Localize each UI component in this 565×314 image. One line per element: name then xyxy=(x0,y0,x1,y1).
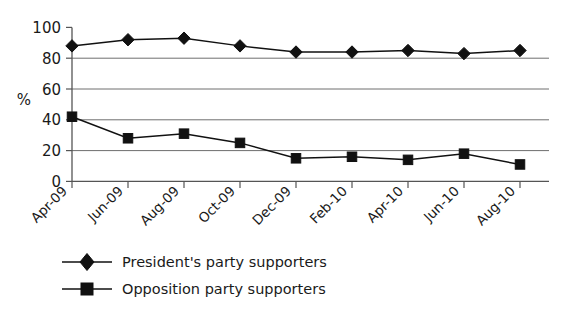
square-marker xyxy=(123,134,133,144)
legend-item-opposition[interactable]: Opposition party supporters xyxy=(62,281,326,297)
diamond-marker xyxy=(122,34,134,46)
x-tick-label-jun-09: Jun-09 xyxy=(84,183,127,226)
x-tick-label-apr-09: Apr-09 xyxy=(27,183,70,226)
legend-item-president[interactable]: President's party supporters xyxy=(62,254,327,271)
diamond-marker xyxy=(290,46,302,58)
legend: President's party supporters Opposition … xyxy=(62,254,327,298)
square-marker xyxy=(179,129,189,139)
x-tick-label-jun-10: Jun-10 xyxy=(420,183,463,226)
x-tick-label-apr-10: Apr-10 xyxy=(363,183,406,226)
y-tick-label-60: 60 xyxy=(42,81,61,99)
diamond-marker xyxy=(80,254,94,271)
legend-label-opposition: Opposition party supporters xyxy=(122,281,326,297)
x-tick-labels: Apr-09 Jun-09 Aug-09 Oct-09 Dec-09 Feb-1… xyxy=(27,183,518,229)
diamond-marker xyxy=(514,44,526,56)
square-marker xyxy=(235,138,245,148)
square-marker xyxy=(459,149,469,159)
y-tick-labels: 100 80 60 40 20 0 xyxy=(32,19,61,191)
diamond-marker xyxy=(178,32,190,44)
x-tick-label-aug-10: Aug-10 xyxy=(473,183,519,229)
x-tick-label-aug-09: Aug-09 xyxy=(137,183,183,229)
square-marker xyxy=(515,160,525,170)
y-axis-title: % xyxy=(17,91,31,109)
series-opposition xyxy=(67,112,525,169)
y-tick-label-20: 20 xyxy=(42,142,61,160)
chart-canvas: 100 80 60 40 20 0 % Apr-09 Jun-09 Aug-09 xyxy=(0,0,565,314)
square-marker xyxy=(291,154,301,164)
y-tick-label-80: 80 xyxy=(42,50,61,68)
square-marker xyxy=(403,155,413,165)
x-tick-label-feb-10: Feb-10 xyxy=(306,183,350,227)
diamond-marker xyxy=(346,46,358,58)
line-chart: 100 80 60 40 20 0 % Apr-09 Jun-09 Aug-09 xyxy=(0,0,565,314)
diamond-marker xyxy=(234,40,246,52)
y-tick-label-100: 100 xyxy=(32,19,61,37)
square-marker xyxy=(81,283,93,295)
x-tick-label-oct-09: Oct-09 xyxy=(195,183,238,226)
square-marker xyxy=(67,112,77,122)
diamond-marker xyxy=(402,44,414,56)
square-marker xyxy=(347,152,357,162)
series-president xyxy=(66,32,526,60)
diamond-marker xyxy=(66,40,78,52)
y-tick-label-40: 40 xyxy=(42,111,61,129)
legend-label-president: President's party supporters xyxy=(122,254,327,270)
x-tick-label-dec-09: Dec-09 xyxy=(249,183,294,228)
data-series-layer xyxy=(66,32,526,169)
